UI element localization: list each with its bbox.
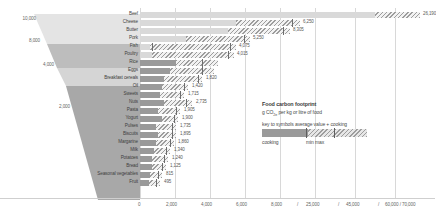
legend-subtitle-post: per kg or litre of food [277, 109, 322, 115]
bar-cooking [152, 52, 234, 58]
bar-value: 1,125 [170, 163, 181, 168]
max-tick [172, 131, 173, 139]
max-tick [180, 91, 181, 99]
xtick-60000-70000: 60,000 / 70,000 [385, 202, 415, 207]
bar-average [140, 68, 170, 74]
max-tick [228, 51, 229, 59]
ytick-2000: 2,000 [36, 104, 70, 109]
bar-label: Fish [130, 43, 138, 48]
xtick-2000: 2,000 [166, 202, 177, 207]
bar-cooking [162, 116, 178, 122]
bar-average [140, 180, 149, 186]
bar-average [140, 148, 154, 154]
legend-min-tick [306, 128, 307, 138]
bar-cooking [170, 68, 214, 74]
bar-cooking [164, 100, 192, 106]
xtick-6000: 6,000 [236, 202, 247, 207]
bar-cooking [150, 172, 162, 178]
bar-value: 1,820 [206, 75, 217, 80]
max-tick [202, 59, 203, 67]
bar-cooking [152, 164, 166, 170]
bar-label: Sweets [124, 91, 138, 96]
xtick-45000: 45,000 [346, 202, 359, 207]
bar-average [140, 36, 186, 42]
bar-label: Seasonal vegetables [97, 171, 138, 176]
xtick-0: 0 [138, 202, 140, 207]
bar-row-seasonal-vegetables: Seasonal vegetables 815 [140, 172, 162, 178]
bar-row-poultry: Poultry 4,015 [140, 52, 234, 58]
max-tick [162, 163, 163, 171]
max-tick [156, 179, 157, 187]
legend-max-tick [334, 128, 335, 138]
legend-swatch-cooking [308, 129, 367, 137]
bar-cooking [236, 20, 300, 26]
bar-row-biscuits: Biscuits 1,895 [140, 132, 176, 138]
bar-label: Cheese [123, 19, 138, 24]
bar-row-pulses: Pulses 1,735 [140, 124, 176, 130]
bar-label: Beef [129, 11, 138, 16]
xtick-4000: 4,000 [201, 202, 212, 207]
bar-label: Bread [126, 163, 138, 168]
bar-label: Pulses [125, 123, 138, 128]
bar-label: Breakfast cereals [104, 75, 138, 80]
bar-label: Butter [126, 27, 138, 32]
x-axis-line [0, 198, 435, 199]
bar-value: 2,735 [196, 99, 207, 104]
bar-value: 4,075 [239, 43, 250, 48]
bar-average [140, 44, 150, 50]
max-tick [198, 75, 199, 83]
axis-break-1: / [297, 202, 298, 207]
bar-average [140, 60, 176, 66]
bar-value: 1,240 [172, 155, 183, 160]
bar-value: 26,190 [423, 11, 436, 16]
bar-row-breakfast-cereals: Breakfast cereals 1,820 [140, 76, 202, 82]
max-tick [230, 43, 231, 51]
bar-value: 1,420 [192, 83, 203, 88]
bar-label: Nuts [129, 99, 138, 104]
bar-average [140, 84, 162, 90]
bar-label: Milk [130, 147, 138, 152]
bar-value: 1,900 [182, 115, 193, 120]
bar-cooking [176, 60, 218, 66]
bar-cooking [156, 124, 176, 130]
bar-cooking [228, 28, 290, 34]
max-tick [184, 83, 185, 91]
bar-label: Rice [129, 59, 138, 64]
xtick-25000: 25,000 [306, 202, 319, 207]
bar-label: Biscuits [123, 131, 138, 136]
max-tick [170, 139, 171, 147]
bar-label: Margarine [118, 139, 138, 144]
bar-label: Yogurt [125, 115, 138, 120]
legend-subtitle: g CO2e per kg or litre of food [262, 109, 382, 117]
bar-row-nuts: Nuts 2,735 [140, 100, 192, 106]
bar-row-margarine: Margarine 1,860 [140, 140, 174, 146]
bar-cooking [158, 132, 176, 138]
max-tick [176, 107, 177, 115]
legend-swatch-average [262, 129, 308, 137]
bar-value: 6,250 [303, 19, 314, 24]
max-tick [174, 115, 175, 123]
bar-row-yogurt: Yogurt 1,900 [140, 116, 178, 122]
axis-break-3: / [378, 202, 379, 207]
bar-row-rice: Rice [140, 60, 218, 66]
bar-label: Potatoes [121, 155, 138, 160]
ytick-4000: 4,000 [20, 62, 54, 67]
bar-cooking [186, 36, 250, 42]
bar-row-fish: Fish 4,075 [140, 44, 236, 50]
bar-row-milk: Milk 1,340 [140, 148, 170, 154]
bar-row-eggs: Eggs [140, 68, 214, 74]
bar-value: 815 [166, 171, 173, 176]
max-tick [292, 19, 293, 27]
bar-row-sweets: Sweets 1,715 [140, 92, 184, 98]
bar-row-oil: Oil 1,420 [140, 84, 188, 90]
bar-value: 1,905 [184, 107, 195, 112]
bar-value: 4,015 [237, 51, 248, 56]
bar-average [140, 116, 162, 122]
bar-cooking [150, 44, 236, 50]
legend-title: Food carbon footprint [262, 101, 382, 107]
bar-row-potatoes: Potatoes 1,240 [140, 156, 168, 162]
bar-row-pasta: Pasta 1,905 [140, 108, 180, 114]
bar-cooking [154, 148, 170, 154]
